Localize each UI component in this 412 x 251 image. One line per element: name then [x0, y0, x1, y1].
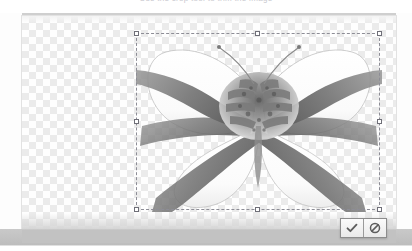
window-footer	[0, 245, 412, 251]
cancel-button[interactable]	[363, 219, 386, 237]
canvas-top-shade	[22, 16, 396, 23]
apply-button[interactable]	[341, 219, 363, 237]
top-caption-text: Use the crop tool to trim the image	[140, 0, 273, 3]
top-caption-strip: Use the crop tool to trim the image	[0, 0, 412, 13]
canvas-area[interactable]	[22, 16, 396, 229]
image-editor-window: Use the crop tool to trim the image	[0, 0, 412, 251]
editor-body	[0, 13, 412, 245]
check-icon	[346, 222, 358, 234]
transform-confirm-bar	[340, 218, 387, 238]
artwork-butterfly-of-hands[interactable]	[136, 30, 382, 212]
no-entry-icon	[369, 222, 381, 234]
